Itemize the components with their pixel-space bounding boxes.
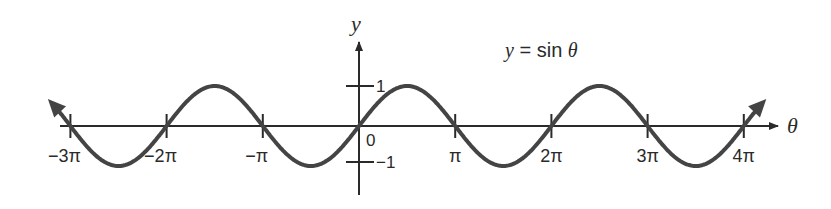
x-tick-label: 3π <box>636 146 658 166</box>
x-tick-label: 2π <box>540 146 562 166</box>
x-tick-label: −3π <box>48 146 81 166</box>
x-tick-label: 4π <box>733 146 755 166</box>
x-tick-label: −π <box>245 146 268 166</box>
y-tick-label-neg1: −1 <box>376 153 395 172</box>
origin-label: 0 <box>366 131 375 150</box>
x-axis-label: θ <box>787 113 798 138</box>
y-axis-label: y <box>349 11 361 36</box>
x-tick-label: −2π <box>144 146 177 166</box>
x-tick-label: π <box>449 146 461 166</box>
y-tick-label-1: 1 <box>376 77 385 96</box>
graph-title: y = sin θ <box>503 39 578 62</box>
x-tick-labels: −3π−2π−ππ2π3π4π <box>48 146 755 166</box>
sine-graph: y θ y = sin θ 0 1 −1 −3π−2π−ππ2π3π4π <box>0 0 831 209</box>
